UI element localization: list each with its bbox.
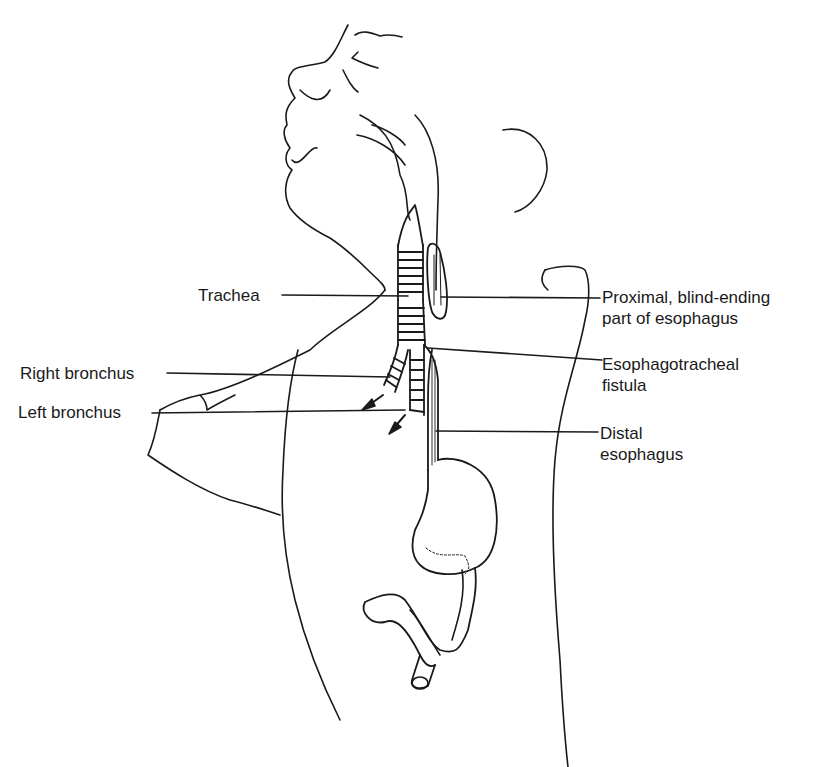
fistula-label: Esophagotracheal fistula [602, 354, 739, 396]
distal-esophagus [424, 345, 438, 470]
trachea-label: Trachea [198, 285, 260, 306]
right-bronchus-leader [167, 373, 390, 377]
fistula-leader [428, 348, 602, 360]
left-bronchus-label: Left bronchus [18, 402, 121, 423]
left-bronchus-leader [152, 410, 405, 413]
body-left-contour [160, 290, 385, 410]
bronchi-drawing [384, 345, 424, 415]
trachea-leader [282, 295, 408, 296]
distal-esophagus-label-line2: esophagus [600, 444, 683, 465]
mouth-lips [292, 148, 317, 163]
fistula-label-line1: Esophagotracheal [602, 354, 739, 375]
ear-outline [503, 129, 547, 212]
left-bronchus-arrowhead [389, 422, 401, 434]
neck-line [360, 115, 410, 220]
duodenum-inner [410, 570, 463, 655]
fistula-label-line2: fistula [602, 375, 739, 396]
cheek-line [343, 70, 358, 92]
proximal-leader [441, 297, 600, 298]
right-bronchus-arrowhead [362, 399, 375, 410]
nose-nostril [300, 90, 330, 99]
body-right-contour [545, 266, 589, 767]
proximal-esophagus-label-line2: part of esophagus [602, 308, 770, 329]
diagram-canvas: Trachea Proximal, blind-ending part of e… [0, 0, 824, 767]
trachea-drawing [398, 205, 425, 345]
distal-esophagus-label: Distal esophagus [600, 423, 683, 465]
distal-esophagus-label-line1: Distal [600, 423, 683, 444]
stomach [413, 459, 497, 574]
proximal-esophagus-label-line1: Proximal, blind-ending [602, 287, 770, 308]
shoulder-right [542, 270, 548, 290]
arm-left [148, 410, 280, 515]
right-bronchus-label: Right bronchus [20, 363, 134, 384]
torso-left [282, 350, 340, 720]
proximal-esophagus-label: Proximal, blind-ending part of esophagus [602, 287, 770, 329]
eye [352, 52, 378, 68]
distal-leader [436, 431, 598, 432]
eyebrow [355, 32, 402, 37]
